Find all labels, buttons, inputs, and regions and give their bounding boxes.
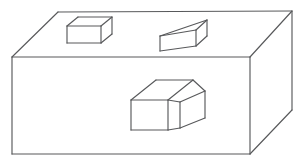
figure-root bbox=[0, 0, 304, 163]
base-slab-top-face bbox=[12, 11, 292, 57]
small-block-left-front-face bbox=[67, 26, 101, 43]
small-block-left bbox=[67, 17, 112, 43]
isometric-block-diagram bbox=[0, 0, 304, 163]
stepped-block-inner-right-face bbox=[168, 100, 180, 130]
stepped-block-tall-front-face bbox=[131, 100, 168, 130]
